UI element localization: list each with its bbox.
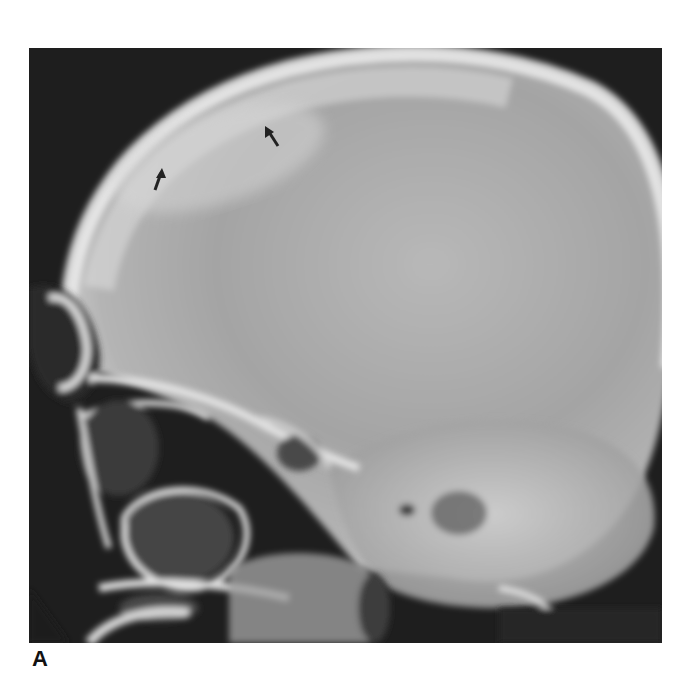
panel-label: A [32,648,48,670]
skull-xray-image [29,48,662,643]
xray-rendering [29,48,662,643]
